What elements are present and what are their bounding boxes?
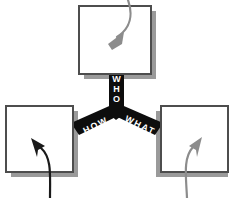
box-right[interactable]: [161, 106, 228, 172]
hub-letter-who-w: W: [112, 74, 121, 84]
diagram-svg: W H O HOW WHAT: [0, 0, 233, 198]
diagram-canvas: W H O HOW WHAT: [0, 0, 233, 198]
hub-letter-who-h: H: [113, 84, 120, 94]
box-left[interactable]: [6, 106, 73, 172]
hub-letter-who-o: O: [113, 94, 120, 104]
